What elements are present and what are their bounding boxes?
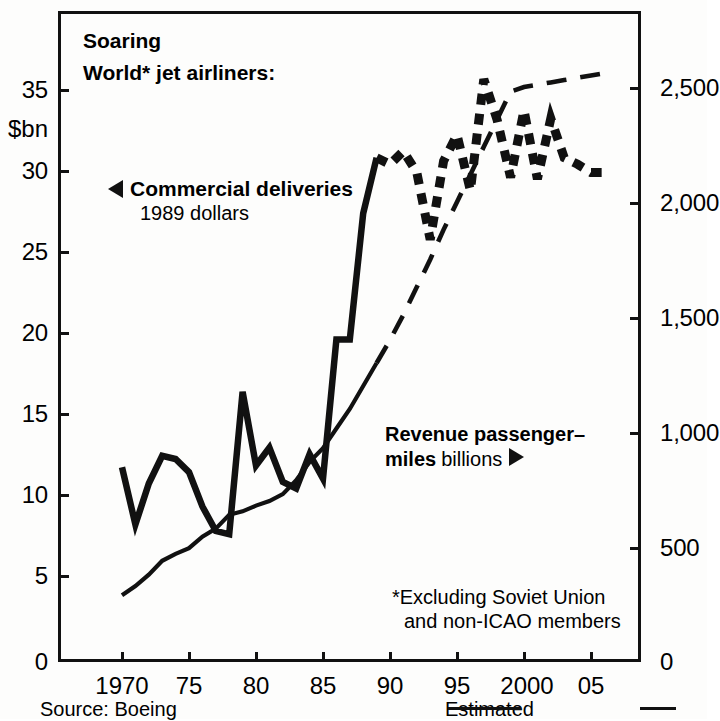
x-tick-05: 05 [578, 674, 605, 698]
annotation-commercial-deliveries-sub: 1989 dollars [140, 201, 249, 225]
footnote-line-2: and non-ICAO members [404, 609, 621, 633]
tickmark-x-95 [456, 652, 459, 662]
left-axis-unit-label: $bn [8, 114, 48, 143]
tickmark-x-1970 [121, 652, 124, 662]
x-tick-2000: 2000 [500, 674, 553, 698]
annotation-rpm-line1: Revenue passenger– [385, 422, 585, 446]
x-tick-90: 90 [377, 674, 404, 698]
annotation-rpm-bold: miles [385, 447, 436, 471]
tickmark-right-1000 [630, 432, 641, 435]
right-triangle-icon [509, 448, 524, 466]
tickmark-left-15 [58, 413, 69, 416]
tickmark-x-90 [389, 652, 392, 662]
tickmark-left-20 [58, 332, 69, 335]
source-label: Source: Boeing [40, 697, 177, 721]
chart-title: Soaring [83, 28, 161, 54]
x-tick-1970: 1970 [95, 674, 148, 698]
x-tick-95: 95 [444, 674, 471, 698]
tickmark-right-2500 [630, 87, 641, 90]
tickmark-right-2000 [630, 202, 641, 205]
tickmark-left-25 [58, 251, 69, 254]
chart-subtitle: World* jet airliners: [83, 60, 275, 86]
tickmark-x-75 [188, 652, 191, 662]
tickmark-left-35 [58, 89, 69, 92]
estimated-rule-right [640, 707, 676, 710]
annotation-commercial-deliveries-label: Commercial deliveries [130, 176, 353, 202]
tickmark-right-1500 [630, 317, 641, 320]
x-tick-85: 85 [310, 674, 337, 698]
tickmark-right-500 [630, 547, 641, 550]
tickmark-x-2000 [523, 652, 526, 662]
estimated-rule-left [448, 707, 521, 710]
plot-frame [58, 11, 641, 662]
tickmark-x-85 [322, 652, 325, 662]
annotation-rpm-line2: miles billions [385, 447, 524, 471]
left-triangle-icon [108, 180, 123, 198]
tickmark-left-30 [58, 170, 69, 173]
annotation-rpm-light: billions [441, 447, 502, 471]
footnote-line-1: *Excluding Soviet Union [392, 585, 605, 609]
tickmark-left-10 [58, 494, 69, 497]
tickmark-left-5 [58, 575, 69, 578]
annotation-commercial-deliveries: Commercial deliveries [108, 176, 353, 202]
x-tick-80: 80 [243, 674, 270, 698]
tickmark-x-05 [590, 652, 593, 662]
tickmark-x-80 [255, 652, 258, 662]
x-tick-75: 75 [176, 674, 203, 698]
